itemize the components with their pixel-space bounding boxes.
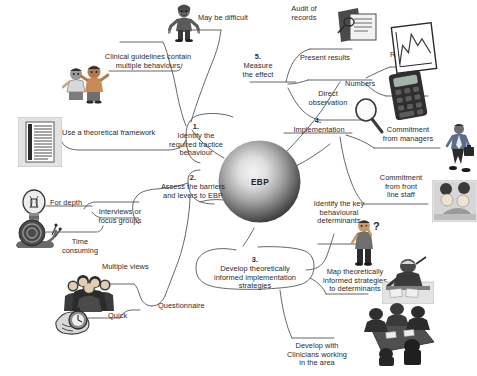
step-4-label: Implementation <box>288 126 350 135</box>
staff-pair-icon <box>432 180 477 222</box>
stopwatch-icon <box>54 302 102 336</box>
run-chart-icon <box>390 22 438 74</box>
thinking-person-icon: ? <box>350 216 382 268</box>
label-theoretical-framework: Use a theoretical framework <box>62 129 166 138</box>
label-numbers: Numbers <box>345 80 389 89</box>
mind-map-canvas: EBP 1. Identify the required tractice be… <box>0 0 477 376</box>
step-3-label: Develop theoretically informed implement… <box>205 265 305 291</box>
label-map-strategies: Map theoretically informed strategies to… <box>318 268 392 294</box>
label-direct-observation: Direct observation <box>298 90 358 107</box>
step-1-label: Identify the required tractice behaviour <box>166 132 226 158</box>
magnifier-icon <box>352 96 386 136</box>
center-label: EBP <box>239 178 281 187</box>
svg-text:?: ? <box>373 220 380 232</box>
document-icon <box>18 117 62 167</box>
person-at-desk-icon <box>382 256 434 304</box>
label-multiple-views: Multiple views <box>102 263 162 272</box>
snail-icon <box>14 218 62 252</box>
step-5-label: Measure the effect <box>234 62 282 79</box>
step-2-label: Assess the barriers and levers to EBP <box>153 183 233 200</box>
businessman-icon <box>442 122 475 174</box>
label-interviews-focus-groups: Interviews or focus groups <box>94 208 146 225</box>
label-present-results: Present results <box>300 54 370 63</box>
label-commitment-front-line: Commitment from front line staff <box>372 174 430 200</box>
label-clinical-guidelines: Clinical guidelines contain multiple beh… <box>100 53 196 70</box>
person-shrug-icon <box>168 4 200 42</box>
meeting-table-icon <box>352 300 438 366</box>
folder-records-icon <box>336 6 382 46</box>
label-develop-with-clinicians: Develop with Clinicians working in the a… <box>280 342 354 368</box>
label-questionnaire: Questionnaire <box>158 302 216 311</box>
two-people-icon <box>62 62 110 104</box>
label-time-consuming: Time consuming <box>55 238 105 255</box>
label-audit-of-records: Audit of records <box>280 5 328 22</box>
calculator-icon <box>388 70 430 120</box>
label-quick: Quick <box>108 312 138 321</box>
label-may-be-difficult: May be difficult <box>198 14 268 23</box>
label-for-depth: For depth <box>50 199 94 208</box>
